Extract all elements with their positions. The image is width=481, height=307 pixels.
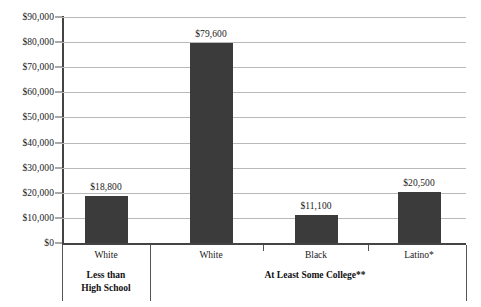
y-axis-tick-label: $50,000 — [22, 112, 54, 122]
bar-value-label: $18,800 — [90, 182, 122, 192]
category-label: Black — [305, 250, 327, 260]
y-axis: $0$10,000$20,000$30,000$40,000$50,000$60… — [0, 0, 62, 307]
category-label: Latino* — [404, 250, 434, 260]
gridline — [62, 17, 466, 18]
gridline — [62, 67, 466, 68]
bar — [295, 215, 338, 243]
y-axis-tick-mark — [55, 42, 62, 43]
gridline — [62, 42, 466, 43]
bar-chart: $0$10,000$20,000$30,000$40,000$50,000$60… — [0, 0, 481, 307]
y-axis-tick-mark — [55, 192, 62, 193]
y-axis-tick-mark — [55, 142, 62, 143]
y-axis-tick-label: $10,000 — [22, 213, 54, 223]
bar-value-label: $20,500 — [403, 178, 435, 188]
y-axis-tick-label: $20,000 — [22, 188, 54, 198]
bar-value-label: $11,100 — [300, 201, 331, 211]
band-border-right — [466, 245, 467, 301]
plot-area: $18,800$79,600$11,100$20,500 — [62, 17, 466, 243]
bar — [398, 192, 441, 243]
gridline — [62, 117, 466, 118]
y-axis-tick-label: $40,000 — [22, 138, 54, 148]
group-label: Less than High School — [81, 269, 130, 295]
y-axis-tick-mark — [55, 67, 62, 68]
y-axis-tick-label: $0 — [44, 238, 54, 248]
gridline — [62, 143, 466, 144]
category-label: White — [199, 250, 222, 260]
y-axis-tick-label: $90,000 — [22, 12, 54, 22]
y-axis-tick-mark — [55, 92, 62, 93]
bar — [190, 43, 233, 243]
y-axis-tick-label: $30,000 — [22, 163, 54, 173]
y-axis-tick-mark — [55, 17, 62, 18]
category-label: White — [94, 250, 117, 260]
category-label-band: WhiteWhiteBlackLatino*Less than High Sch… — [62, 245, 467, 303]
y-axis-tick-mark — [55, 167, 62, 168]
y-axis-tick-mark — [55, 217, 62, 218]
y-axis-tick-mark — [55, 243, 62, 244]
bar-value-label: $79,600 — [195, 29, 227, 39]
group-label: At Least Some College** — [264, 269, 365, 282]
y-axis-tick-label: $80,000 — [22, 37, 54, 47]
group-divider — [150, 245, 151, 301]
gridline — [62, 168, 466, 169]
y-axis-tick-mark — [55, 117, 62, 118]
gridline — [62, 92, 466, 93]
bar — [85, 196, 128, 243]
y-axis-tick-label: $70,000 — [22, 62, 54, 72]
y-axis-tick-label: $60,000 — [22, 87, 54, 97]
band-border-left — [62, 245, 63, 301]
